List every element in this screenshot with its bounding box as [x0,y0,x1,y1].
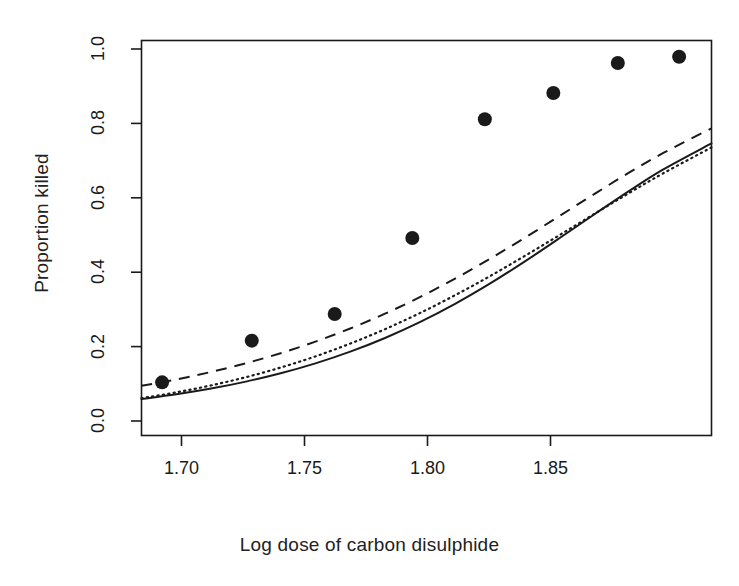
logit-fit-curve [142,143,712,399]
y-axis-ticks [131,49,142,421]
data-point [328,307,342,321]
cloglog-fit-curve [142,128,712,386]
x-axis-ticks [182,436,551,447]
x-tick-label-0: 1.70 [141,458,222,479]
data-point [405,231,419,245]
x-tick-label-2: 1.80 [387,458,468,479]
y-tick-label-5: 1.0 [88,27,109,71]
x-tick-label-1: 1.75 [264,458,345,479]
y-tick-label-4: 0.8 [88,101,109,145]
data-point [245,334,259,348]
y-axis-title-wrapper: Proportion killed [31,73,61,373]
data-point [672,50,686,64]
observed-data-points [155,50,686,390]
data-point [546,86,560,100]
y-tick-label-3: 0.6 [88,176,109,220]
y-tick-label-0: 0.0 [88,399,109,443]
x-tick-label-3: 1.85 [510,458,591,479]
x-axis-title: Log dose of carbon disulphide [0,534,739,556]
y-tick-label-1: 0.2 [88,325,109,369]
y-tick-label-2: 0.4 [88,250,109,294]
data-point [155,375,169,389]
probit-fit-curve [142,147,712,398]
plot-canvas [0,0,739,586]
fitted-curves [142,128,712,399]
data-point [611,56,625,70]
y-axis-title: Proportion killed [31,73,53,373]
plot-frame [142,41,712,436]
chart-figure: 0.0 0.2 0.4 0.6 0.8 1.0 1.70 1.75 1.80 1… [0,0,739,586]
data-point [478,112,492,126]
